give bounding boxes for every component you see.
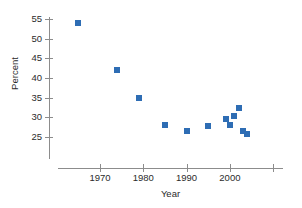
x-axis-tick-label: 1990 xyxy=(167,173,207,183)
y-axis-tick-label: 35 xyxy=(20,93,42,102)
data-point[interactable] xyxy=(205,123,211,129)
data-point[interactable] xyxy=(114,67,120,73)
y-axis-tick xyxy=(45,39,53,40)
y-axis-tick-label: 45 xyxy=(20,53,42,62)
data-point[interactable] xyxy=(75,20,81,26)
y-axis-tick-label: 25 xyxy=(20,132,42,141)
data-point[interactable] xyxy=(184,128,190,134)
x-axis-tick xyxy=(187,164,188,172)
x-axis-tick-label: 1980 xyxy=(123,173,163,183)
y-axis-tick-label: 40 xyxy=(20,73,42,82)
data-point[interactable] xyxy=(236,105,242,111)
x-axis-tick xyxy=(230,164,231,172)
y-axis-tick xyxy=(45,78,53,79)
y-axis-tick xyxy=(45,117,53,118)
data-point[interactable] xyxy=(231,113,237,119)
data-point[interactable] xyxy=(227,122,233,128)
y-axis-tick-label: 55 xyxy=(20,14,42,23)
scatter-chart: 25303540455055 Percent 1970198019902000 … xyxy=(0,0,302,208)
y-axis-tick xyxy=(45,137,53,138)
y-axis-tick xyxy=(45,58,53,59)
y-axis-tick-label: 30 xyxy=(20,112,42,121)
y-axis-tick-label: 50 xyxy=(20,34,42,43)
x-axis-line xyxy=(58,168,283,169)
x-axis-tick-label: 2000 xyxy=(210,173,250,183)
x-axis-tick xyxy=(143,164,144,172)
data-point[interactable] xyxy=(244,131,250,137)
y-axis-title: Percent xyxy=(9,44,20,104)
y-axis-tick xyxy=(45,19,53,20)
y-axis-tick xyxy=(45,98,53,99)
x-axis-title: Year xyxy=(58,188,283,199)
x-axis-tick xyxy=(100,164,101,172)
data-point[interactable] xyxy=(136,95,142,101)
x-axis-tick-label: 1970 xyxy=(80,173,120,183)
x-axis-tick xyxy=(273,164,274,172)
data-point[interactable] xyxy=(162,122,168,128)
